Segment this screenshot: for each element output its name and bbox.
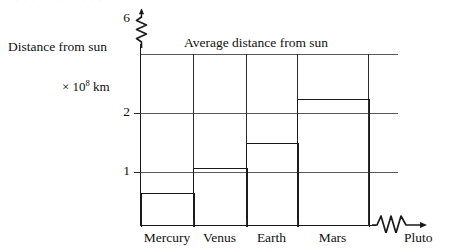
chart-title: Average distance from sun xyxy=(184,35,328,51)
y-tick-label-2: 2 xyxy=(112,104,130,120)
x-tickmark-4 xyxy=(368,219,369,226)
bar-mars[interactable] xyxy=(297,99,370,227)
y-axis-units-prefix: × 10 xyxy=(62,79,86,94)
y-tickmark-2 xyxy=(134,113,141,114)
y-tick-label-1: 1 xyxy=(112,163,130,179)
x-tick-label-earth: Earth xyxy=(246,230,297,246)
chart-figure: · · · · · · · · · · · · · Distance xyxy=(0,0,453,252)
bar-earth[interactable] xyxy=(246,143,299,227)
bar-mercury[interactable] xyxy=(141,193,195,227)
y-axis-title: Distance from sun xyxy=(8,39,107,55)
x-tickmark-1 xyxy=(193,219,194,226)
y-axis-units-suffix: km xyxy=(90,79,110,94)
bar-venus[interactable] xyxy=(193,168,248,227)
x-tick-label-pluto: Pluto xyxy=(404,230,433,246)
x-tickmark-3 xyxy=(297,219,298,226)
x-tick-label-mars: Mars xyxy=(297,230,368,246)
y-axis-break-icon xyxy=(130,8,154,48)
y-tickmark-1 xyxy=(134,172,141,173)
cropped-header-text: · · · · · · · · · · · · · xyxy=(6,0,453,2)
y-tick-label-6: 6 xyxy=(112,10,130,26)
x-tickmark-2 xyxy=(246,219,247,226)
gridline-top xyxy=(141,54,398,55)
x-tick-label-mercury: Mercury xyxy=(141,230,193,246)
y-axis-units-label: × 108 km xyxy=(62,78,110,95)
cropped-header-remnant: · · · · · · · · · · · · · xyxy=(0,0,453,3)
x-tick-label-venus: Venus xyxy=(193,230,246,246)
